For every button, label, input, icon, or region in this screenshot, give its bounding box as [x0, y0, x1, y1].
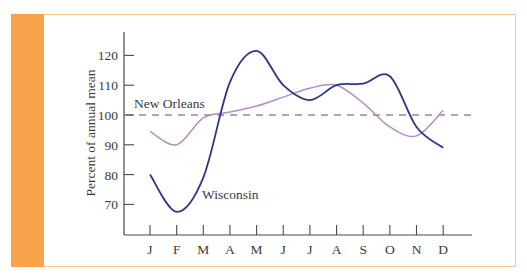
y-tick-label: 80: [105, 168, 119, 183]
axes: 708090100110120JFMAMJJASOND: [98, 32, 472, 257]
new-orleans-label: New Orleans: [134, 96, 205, 111]
x-tick-label: J: [147, 242, 152, 257]
x-tick-label: F: [173, 242, 181, 257]
y-tick-label: 100: [98, 108, 119, 123]
x-tick-label: M: [251, 242, 263, 257]
y-tick-label: 110: [98, 78, 118, 93]
wisconsin-label: Wisconsin: [202, 187, 259, 202]
x-tick-label: D: [438, 242, 448, 257]
x-tick-label: M: [197, 242, 209, 257]
y-axis-title: Percent of annual mean: [83, 69, 98, 196]
y-tick-label: 120: [98, 48, 119, 63]
y-tick-label: 70: [105, 197, 119, 212]
x-tick-label: N: [412, 242, 422, 257]
wisconsin-line: [150, 51, 443, 212]
x-tick-label: O: [385, 242, 395, 257]
y-tick-label: 90: [105, 138, 119, 153]
x-tick-label: J: [281, 242, 286, 257]
x-tick-label: J: [307, 242, 312, 257]
x-tick-label: A: [332, 242, 342, 257]
line-chart: 708090100110120JFMAMJJASOND Percent of a…: [0, 0, 527, 279]
x-tick-label: A: [225, 242, 235, 257]
x-tick-label: S: [359, 242, 367, 257]
series-group: [150, 51, 443, 212]
